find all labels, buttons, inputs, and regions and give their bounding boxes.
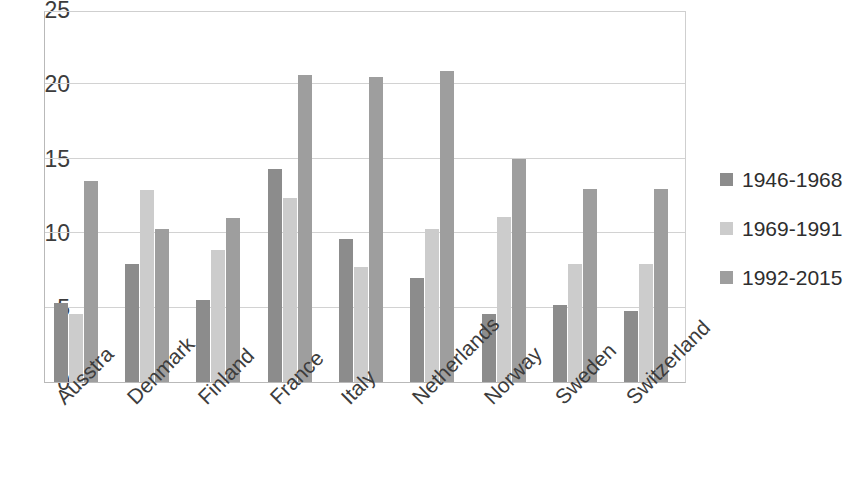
chart-legend: 1946-19681969-19911992-2015: [720, 155, 854, 302]
bar: [410, 278, 424, 382]
bar: [440, 71, 454, 382]
bar-group: [544, 12, 615, 382]
bar-group: [116, 12, 187, 382]
legend-item-label: 1992-2015: [742, 267, 842, 288]
legend-item-label: 1946-1968: [742, 169, 842, 190]
legend-swatch-icon: [720, 271, 733, 284]
bar: [196, 300, 210, 382]
bar: [125, 264, 139, 382]
bar-group: [402, 12, 473, 382]
bar-group: [188, 12, 259, 382]
bar: [283, 198, 297, 383]
legend-item: 1969-1991: [720, 204, 854, 253]
bar: [553, 305, 567, 382]
bar-chart: 0510152025 AusstraDenmarkFinlandFranceIt…: [0, 0, 854, 499]
bar: [369, 77, 383, 382]
bar: [140, 190, 154, 382]
legend-swatch-icon: [720, 222, 733, 235]
bar: [497, 217, 511, 382]
bar: [54, 303, 68, 382]
bar: [268, 169, 282, 382]
bar-group: [45, 12, 116, 382]
bar: [339, 239, 353, 382]
legend-item-label: 1969-1991: [742, 218, 842, 239]
bar-group: [616, 12, 687, 382]
x-axis-category-labels: AusstraDenmarkFinlandFranceItalyNetherla…: [44, 383, 686, 499]
bar: [354, 267, 368, 382]
plot-area: [44, 11, 686, 383]
bar-group: [259, 12, 330, 382]
legend-item: 1992-2015: [720, 253, 854, 302]
bar: [425, 229, 439, 382]
legend-swatch-icon: [720, 173, 733, 186]
bar-group: [330, 12, 401, 382]
bar: [624, 311, 638, 382]
bar: [298, 75, 312, 382]
legend-item: 1946-1968: [720, 155, 854, 204]
bars-layer: [45, 12, 685, 382]
